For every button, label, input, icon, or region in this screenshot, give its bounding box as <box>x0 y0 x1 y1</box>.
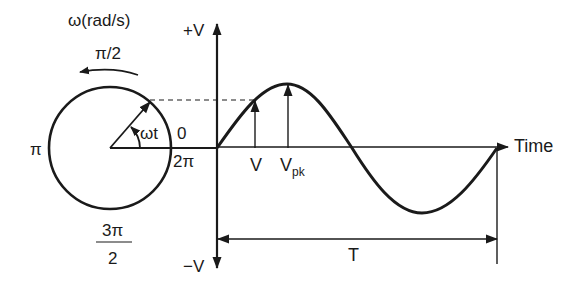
angle-half-pi-label: π/2 <box>95 45 121 62</box>
sine-wave <box>217 84 497 213</box>
angle-arc <box>131 127 140 148</box>
angle-zero-label: 0 <box>177 125 186 142</box>
phasor-diagram-canvas <box>0 0 586 281</box>
rotation-arrow <box>80 70 138 75</box>
peak-voltage-label: Vpk <box>280 156 305 174</box>
positive-voltage-label: +V <box>183 22 204 39</box>
instant-voltage-label: V <box>250 156 262 174</box>
angle-two-pi-label: 2π <box>173 153 194 170</box>
angle-three-half-pi-denominator: 2 <box>108 250 117 267</box>
angle-pi-label: π <box>30 141 42 158</box>
peak-voltage-subscript: pk <box>292 165 305 179</box>
period-label: T <box>348 246 359 264</box>
negative-voltage-label: −V <box>183 258 204 275</box>
angle-three-half-pi-numerator: 3π <box>102 222 123 239</box>
rotation-speed-label: ω(rad/s) <box>68 12 130 29</box>
peak-voltage-main: V <box>280 155 292 175</box>
angle-omega-t-label: ωt <box>140 125 158 142</box>
time-axis-label: Time <box>514 137 553 155</box>
